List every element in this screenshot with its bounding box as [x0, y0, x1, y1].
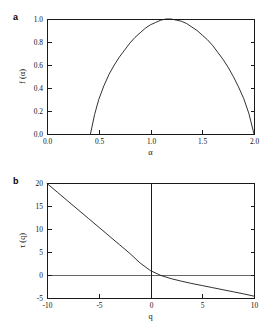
y-axis-title: f (α) [18, 69, 27, 84]
y-tick-label: 5 [39, 248, 43, 257]
x-tick-label: -5 [96, 301, 102, 310]
x-axis-title: q [148, 312, 153, 321]
x-axis-title: α [148, 148, 153, 157]
y-tick-label: 0.6 [34, 61, 44, 70]
panel-a-plot: 0.00.51.01.52.00.00.20.40.60.81.0αf (α) [0, 0, 271, 167]
y-tick-label: 10 [36, 225, 44, 234]
x-tick-label: 0.5 [95, 137, 105, 146]
plot-frame [48, 20, 255, 135]
y-tick-label: 15 [36, 202, 44, 211]
panel-tau-q: b -10-50510-505101520qτ (q) [0, 167, 271, 334]
x-tick-label: 10 [251, 301, 259, 310]
data-curve [90, 19, 254, 134]
panel-b-plot: -10-50510-505101520qτ (q) [0, 167, 271, 334]
x-tick-label: 1.5 [198, 137, 208, 146]
y-tick-label: 0.0 [34, 130, 44, 139]
y-axis-title: τ (q) [18, 233, 27, 248]
y-tick-label: 20 [36, 179, 44, 188]
x-tick-label: 1.0 [147, 137, 157, 146]
y-tick-label: 0.4 [34, 84, 44, 93]
multifractal-figure: a 0.00.51.01.52.00.00.20.40.60.81.0αf (α… [0, 0, 271, 334]
y-tick-label: -5 [37, 294, 43, 303]
panel-f-alpha: a 0.00.51.01.52.00.00.20.40.60.81.0αf (α… [0, 0, 271, 167]
y-tick-label: 0 [39, 271, 43, 280]
y-tick-label: 1.0 [34, 15, 44, 24]
x-tick-label: -10 [43, 301, 53, 310]
x-tick-label: 2.0 [250, 137, 260, 146]
x-tick-label: 5 [201, 301, 205, 310]
y-tick-label: 0.8 [34, 38, 44, 47]
x-tick-label: 0.0 [43, 137, 53, 146]
y-tick-label: 0.2 [34, 107, 44, 116]
x-tick-label: 0 [150, 301, 154, 310]
